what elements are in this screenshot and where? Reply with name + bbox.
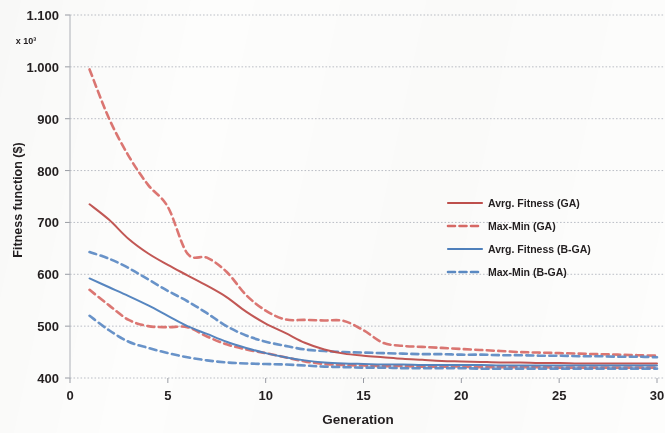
x-tick-label-25: 25 [552, 388, 566, 403]
x-tick-label-0: 0 [66, 388, 73, 403]
x-tick-label-15: 15 [356, 388, 370, 403]
y-tick-label-800: 800 [37, 164, 59, 179]
series-group [90, 69, 657, 368]
y-axis-multiplier: x 10³ [16, 36, 37, 46]
x-tick-labels: 051015202530 [66, 388, 664, 403]
y-tick-labels: 4005006007008009001.0001.100 [26, 8, 59, 386]
series-line-max-min-b-ga-lower [90, 316, 657, 369]
legend-label-0: Avrg. Fitness (GA) [488, 197, 580, 209]
y-tick-label-1000: 1.000 [26, 60, 59, 75]
legend-label-2: Avrg. Fitness (B-GA) [488, 243, 591, 255]
y-tick-label-400: 400 [37, 371, 59, 386]
series-line-max-min-ga-upper [90, 69, 657, 355]
fitness-chart: 4005006007008009001.0001.100 05101520253… [0, 0, 665, 433]
x-tick-label-5: 5 [164, 388, 171, 403]
series-line-avrg-fitness-ga [90, 204, 657, 363]
y-tick-label-900: 900 [37, 112, 59, 127]
x-tick-label-20: 20 [454, 388, 468, 403]
legend-label-1: Max-Min (GA) [488, 220, 556, 232]
y-tick-label-600: 600 [37, 267, 59, 282]
x-tick-label-10: 10 [258, 388, 272, 403]
chart-plot-svg: 4005006007008009001.0001.100 05101520253… [0, 0, 665, 433]
y-tick-label-1100: 1.100 [26, 8, 59, 23]
y-tick-label-500: 500 [37, 319, 59, 334]
chart-legend: Avrg. Fitness (GA)Max-Min (GA)Avrg. Fitn… [448, 197, 591, 278]
x-axis-title: Generation [322, 412, 393, 427]
x-tick-label-30: 30 [650, 388, 664, 403]
y-axis-title: Fitness function ($) [11, 142, 25, 257]
legend-label-3: Max-Min (B-GA) [488, 266, 567, 278]
y-tick-label-700: 700 [37, 215, 59, 230]
